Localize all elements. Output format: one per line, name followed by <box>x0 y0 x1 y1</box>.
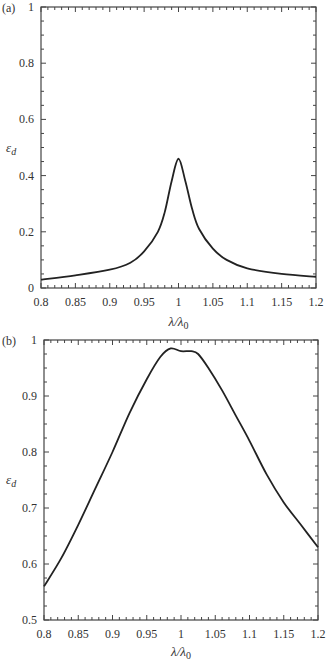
x-tick-label: 1 <box>176 295 182 309</box>
y-tick-label: 1 <box>28 0 34 14</box>
y-tick-label: 0.9 <box>22 389 37 403</box>
x-tick-label: 0.9 <box>105 627 120 641</box>
x-tick-label: 1 <box>178 627 184 641</box>
x-tick-label: 0.85 <box>68 627 89 641</box>
x-tick-label: 0.95 <box>136 627 157 641</box>
y-axis-label: εd <box>6 140 17 157</box>
figure: 0.80.850.90.9511.051.11.151.200.20.40.60… <box>0 0 329 669</box>
plot-frame <box>44 340 318 620</box>
y-axis-label: εd <box>6 472 17 489</box>
y-tick-label: 0.8 <box>19 56 34 70</box>
x-tick-label: 1.2 <box>309 295 324 309</box>
x-tick-label: 1.1 <box>240 295 255 309</box>
chart-panel-a: 0.80.850.90.9511.051.11.151.200.20.40.60… <box>2 0 324 331</box>
x-tick-label: 1.15 <box>273 627 294 641</box>
x-tick-label: 0.85 <box>65 295 86 309</box>
panel-label: (a) <box>2 1 15 15</box>
y-tick-label: 0 <box>28 281 34 295</box>
chart-panel-b: 0.80.850.90.9511.051.11.151.20.50.60.70.… <box>2 333 326 661</box>
x-tick-label: 0.9 <box>102 295 117 309</box>
x-tick-label: 0.8 <box>37 627 52 641</box>
x-axis-label: λ/λ0 <box>168 314 189 331</box>
x-axis-label: λ/λ0 <box>170 644 191 661</box>
x-tick-label: 0.95 <box>134 295 155 309</box>
plot-frame <box>41 7 316 288</box>
x-tick-label: 1.15 <box>271 295 292 309</box>
data-curve <box>41 159 316 280</box>
y-tick-label: 0.8 <box>22 445 37 459</box>
y-tick-label: 0.4 <box>19 169 34 183</box>
panel-label: (b) <box>2 334 16 348</box>
x-tick-label: 1.2 <box>311 627 326 641</box>
y-tick-label: 0.6 <box>19 112 34 126</box>
data-curve <box>44 348 318 586</box>
y-tick-label: 0.6 <box>22 557 37 571</box>
y-tick-label: 0.5 <box>22 613 37 627</box>
y-tick-label: 0.7 <box>22 501 37 515</box>
x-tick-label: 1.05 <box>202 295 223 309</box>
y-tick-label: 0.2 <box>19 225 34 239</box>
x-tick-label: 1.05 <box>205 627 226 641</box>
y-tick-label: 1 <box>31 333 37 347</box>
x-tick-label: 0.8 <box>34 295 49 309</box>
x-tick-label: 1.1 <box>242 627 257 641</box>
